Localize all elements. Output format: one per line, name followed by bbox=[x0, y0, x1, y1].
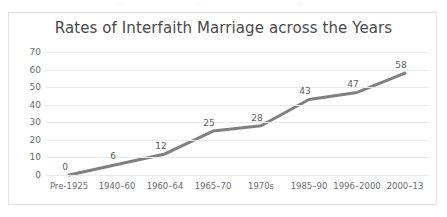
chart-title: Rates of Interfaith Marriage across the … bbox=[9, 19, 438, 37]
gridline bbox=[45, 87, 429, 88]
gridline bbox=[45, 70, 429, 71]
data-point-label: 47 bbox=[347, 80, 358, 89]
y-axis-tick-label: 60 bbox=[15, 66, 41, 75]
x-axis-tick-label: 1940–60 bbox=[99, 181, 136, 191]
gridline bbox=[45, 105, 429, 106]
data-point-label: 28 bbox=[251, 114, 262, 123]
toolbar-artifact-1 bbox=[116, 2, 124, 7]
gridline bbox=[45, 140, 429, 141]
x-axis: Pre-19251940–601960–641965–701970s1985–9… bbox=[45, 181, 429, 197]
chart-container[interactable]: Rates of Interfaith Marriage across the … bbox=[8, 12, 437, 205]
y-axis-tick-label: 70 bbox=[15, 48, 41, 57]
x-axis-tick-label: 1965–70 bbox=[195, 181, 232, 191]
gridline bbox=[45, 175, 429, 176]
x-axis-tick-label: 1985–90 bbox=[291, 181, 328, 191]
y-axis-tick-label: 30 bbox=[15, 118, 41, 127]
data-point-label: 12 bbox=[155, 142, 166, 151]
gridline bbox=[45, 122, 429, 123]
data-point-label: 6 bbox=[110, 152, 116, 161]
x-axis-tick-label: 1996–2000 bbox=[333, 181, 381, 191]
x-axis-tick-label: Pre-1925 bbox=[50, 181, 88, 191]
toolbar-artifact-3 bbox=[296, 2, 303, 7]
x-axis-tick-label: 2000–13 bbox=[387, 181, 424, 191]
y-axis-tick-label: 50 bbox=[15, 83, 41, 92]
x-axis-tick-label: 1960–64 bbox=[147, 181, 184, 191]
data-point-label: 0 bbox=[62, 163, 68, 172]
screenshot-root: Rates of Interfaith Marriage across the … bbox=[0, 0, 447, 217]
data-point-label: 58 bbox=[395, 61, 406, 70]
y-axis-tick-label: 40 bbox=[15, 101, 41, 110]
toolbar-artifact-2 bbox=[196, 2, 202, 7]
y-axis: 706050403020100 bbox=[9, 52, 41, 175]
y-axis-tick-label: 0 bbox=[15, 171, 41, 180]
gridline bbox=[45, 52, 429, 53]
data-point-label: 25 bbox=[203, 119, 214, 128]
y-axis-tick-label: 20 bbox=[15, 136, 41, 145]
cropped-toolbar-strip bbox=[0, 0, 447, 11]
y-axis-tick-label: 10 bbox=[15, 153, 41, 162]
plot-area: 06122528434758 bbox=[45, 52, 429, 175]
x-axis-tick-label: 1970s bbox=[248, 181, 274, 191]
data-point-label: 43 bbox=[299, 87, 310, 96]
gridline bbox=[45, 157, 429, 158]
